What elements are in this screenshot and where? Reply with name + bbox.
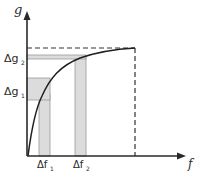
delta-f2-subscript: 2 [86, 165, 90, 172]
delta-g1-label: Δg [4, 85, 19, 98]
delta-f2-band [75, 57, 86, 156]
delta-f2-label: Δf [73, 159, 84, 170]
delta-f1-band [39, 94, 50, 156]
x-axis-arrow-icon [177, 153, 186, 160]
delta-f1-label: Δf [37, 159, 48, 170]
y-axis-arrow-icon [24, 11, 31, 20]
y-axis-label: g [14, 2, 22, 17]
delta-g2-label: Δg [4, 52, 19, 65]
delta-g1-band [27, 78, 50, 100]
diagram-canvas: g f Δg 2 Δg 1 Δf 1 Δf 2 [0, 0, 202, 180]
delta-f1-subscript: 1 [50, 165, 54, 172]
delta-g1-subscript: 1 [21, 92, 25, 99]
delta-g2-subscript: 2 [21, 59, 25, 66]
x-axis-label: f [187, 157, 195, 171]
